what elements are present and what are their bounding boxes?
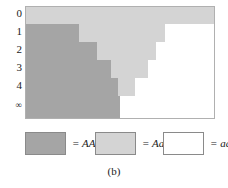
- figure-caption: (b): [0, 165, 228, 177]
- y-axis: 0 1 2 3 4 ∞: [0, 0, 24, 120]
- segment-aa: [165, 24, 214, 42]
- legend-swatch-aa: [163, 132, 204, 155]
- segment-aa: [156, 42, 214, 60]
- legend-item-Aa: = Aa: [95, 130, 164, 156]
- y-tick-3: 3: [2, 62, 22, 73]
- band-generation-3: [26, 60, 214, 78]
- legend-label-aa: = aa: [210, 137, 228, 149]
- legend-item-AA: = AA: [25, 130, 95, 156]
- segment-AA: [26, 24, 79, 42]
- segment-Aa: [97, 42, 155, 60]
- band-generation-0: [26, 7, 214, 24]
- band-generation-1: [26, 24, 214, 42]
- y-tick-4: 4: [2, 80, 22, 91]
- genotype-frequency-figure: 0 1 2 3 4 ∞: [0, 0, 228, 188]
- legend-label-Aa: = Aa: [142, 137, 164, 149]
- segment-AA: [26, 60, 111, 78]
- segment-AA: [26, 78, 118, 96]
- segment-aa: [120, 96, 214, 119]
- legend: = AA = Aa = aa: [25, 130, 215, 156]
- band-generation-2: [26, 42, 214, 60]
- y-tick-2: 2: [2, 44, 22, 55]
- segment-aa: [135, 78, 214, 96]
- segment-Aa: [26, 7, 214, 24]
- y-tick-1: 1: [2, 26, 22, 37]
- plot-area: [25, 6, 215, 119]
- legend-label-AA: = AA: [72, 137, 95, 149]
- y-tick-0: 0: [2, 8, 22, 19]
- band-generation-4: [26, 78, 214, 96]
- band-generation-infinity: [26, 96, 214, 119]
- segment-Aa: [79, 24, 165, 42]
- legend-swatch-Aa: [95, 132, 136, 155]
- legend-swatch-AA: [25, 132, 66, 155]
- segment-aa: [148, 60, 214, 78]
- segment-Aa: [111, 60, 149, 78]
- segment-AA: [26, 96, 120, 119]
- segment-AA: [26, 42, 97, 60]
- segment-Aa: [118, 78, 135, 96]
- y-tick-infinity: ∞: [2, 100, 22, 111]
- legend-item-aa: = aa: [163, 130, 228, 156]
